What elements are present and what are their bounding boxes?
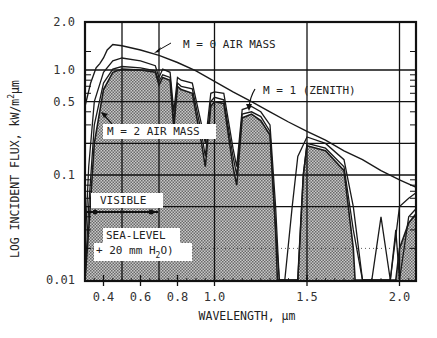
label-m0-air-mass: M = 0 AIR MASS xyxy=(183,38,276,51)
y-tick-label: 0.1 xyxy=(53,168,75,182)
x-tick-label: 1.0 xyxy=(204,290,226,304)
label-m1-zenith: M = 1 (ZENITH) xyxy=(263,84,356,97)
solar-spectrum-chart: 0.40.60.81.01.52.0 2.01.00.50.10.01 LOG … xyxy=(0,0,437,338)
label-visible: VISIBLE xyxy=(100,194,146,207)
label-sea-level: SEA-LEVEL xyxy=(106,229,166,242)
x-tick-label: 0.4 xyxy=(93,290,115,304)
x-axis-label: WAVELENGTH, µm xyxy=(199,309,296,323)
x-tick-label: 2.0 xyxy=(389,290,411,304)
annotation-visible: VISIBLE xyxy=(87,193,163,215)
y-axis-label: LOG INCIDENT FLUX, kW/m2µm xyxy=(7,80,22,258)
y-tick-label: 0.01 xyxy=(46,273,75,287)
label-m2-air-mass: M = 2 AIR MASS xyxy=(107,125,200,138)
x-axis-ticks: 0.40.60.81.01.52.0 xyxy=(93,275,411,304)
y-tick-label: 2.0 xyxy=(53,15,75,29)
x-tick-label: 0.8 xyxy=(167,290,189,304)
y-tick-label: 1.0 xyxy=(53,63,75,77)
x-tick-label: 1.5 xyxy=(296,290,318,304)
annotation-m0: M = 0 AIR MASS xyxy=(154,38,276,53)
annotation-sea-level: SEA-LEVEL + 20 mm H2O) xyxy=(94,228,192,261)
x-tick-label: 0.6 xyxy=(130,290,152,304)
y-tick-label: 0.5 xyxy=(53,95,75,109)
